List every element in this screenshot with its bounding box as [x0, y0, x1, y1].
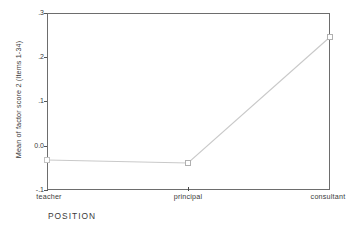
series-layer [0, 0, 362, 239]
series-line [47, 37, 330, 163]
x-axis-title: POSITION [48, 211, 96, 221]
x-tick-label-teacher: teacher [36, 192, 61, 201]
line-chart: Mean of factor score 2 (Items 1-34) .3 .… [0, 0, 362, 239]
data-point-principal [186, 161, 191, 166]
data-point-teacher [45, 158, 50, 163]
x-tick-label-principal: principal [174, 192, 203, 201]
data-point-consultant [328, 35, 333, 40]
x-tick-label-consultant: consultant [311, 192, 346, 201]
